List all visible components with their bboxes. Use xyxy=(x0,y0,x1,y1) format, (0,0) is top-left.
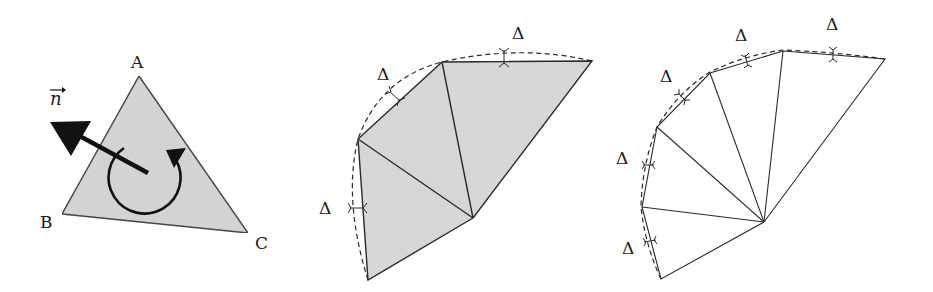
fine-delta-tick-3 xyxy=(674,89,690,105)
fine-spoke-1 xyxy=(642,207,764,222)
panel-fine-fan: Δ Δ Δ Δ Δ xyxy=(616,14,885,279)
fine-delta-label-4: Δ xyxy=(616,148,628,168)
fine-delta-label-5: Δ xyxy=(622,238,634,258)
fine-fan-outline xyxy=(642,51,885,279)
coarse-fan-fill xyxy=(358,61,592,280)
vertex-c-label: C xyxy=(255,233,268,253)
fine-delta-label-3: Δ xyxy=(660,66,672,86)
coarse-delta-label-top: Δ xyxy=(512,23,524,43)
coarse-delta-label-lower-left: Δ xyxy=(319,198,331,218)
vertex-b-label: B xyxy=(40,212,53,232)
normal-label: n xyxy=(50,88,62,109)
fine-spoke-2 xyxy=(657,127,764,222)
fine-delta-tick-4 xyxy=(642,161,655,169)
triangle-abc xyxy=(62,76,248,233)
panel-coarse-fan: Δ Δ Δ xyxy=(319,23,592,280)
fine-spoke-4 xyxy=(764,51,783,222)
fine-delta-label-2: Δ xyxy=(735,25,747,45)
fine-spoke-3 xyxy=(710,73,764,222)
normal-label-arrow-tip-icon xyxy=(62,87,66,93)
fine-true-arc xyxy=(641,50,885,279)
panel-triangle-normal: n A B C xyxy=(40,52,268,253)
coarse-delta-label-upper-left: Δ xyxy=(377,64,389,84)
fine-delta-label-1: Δ xyxy=(826,14,838,34)
diagram-canvas: n A B C Δ Δ Δ xyxy=(0,0,933,292)
vertex-a-label: A xyxy=(130,52,144,72)
